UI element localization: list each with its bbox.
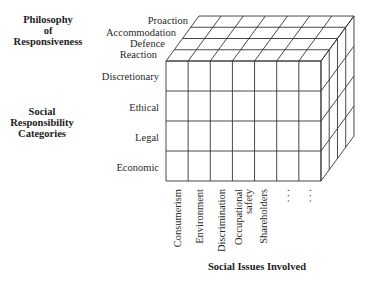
depth-axis-title-line3: Responsiveness xyxy=(14,36,83,47)
vertical-axis-title-line2: Responsibility xyxy=(10,117,74,128)
issue-consumerism: Consumerism xyxy=(172,189,183,247)
category-discretionary: Discretionary xyxy=(102,71,160,82)
issue-environment: Environment xyxy=(194,189,205,244)
depth-level-reaction: Reaction xyxy=(120,49,158,60)
depth-axis-title-line2: of xyxy=(44,25,53,36)
issue-ellipsis-1: . . . xyxy=(280,189,291,202)
issue-safety: safety xyxy=(243,188,254,214)
cube-grid xyxy=(166,16,354,181)
issue-shareholders: Shareholders xyxy=(258,189,269,244)
depth-level-proaction: Proaction xyxy=(148,15,189,26)
horizontal-axis-title: Social Issues Involved xyxy=(208,261,306,272)
depth-axis-title-line1: Philosophy xyxy=(23,14,73,25)
category-economic: Economic xyxy=(116,162,159,173)
depth-level-defence: Defence xyxy=(130,38,165,49)
issue-ellipsis-2: . . . xyxy=(302,189,313,202)
vertical-axis-title-line3: Categories xyxy=(18,128,66,139)
depth-level-accommodation: Accommodation xyxy=(106,27,177,38)
category-legal: Legal xyxy=(135,132,159,143)
responsiveness-cube-diagram: Philosophy of Responsiveness Proaction A… xyxy=(0,0,370,281)
category-ethical: Ethical xyxy=(129,102,159,113)
vertical-axis-title-line1: Social xyxy=(29,106,56,117)
issue-discrimination: Discrimination xyxy=(216,188,227,252)
